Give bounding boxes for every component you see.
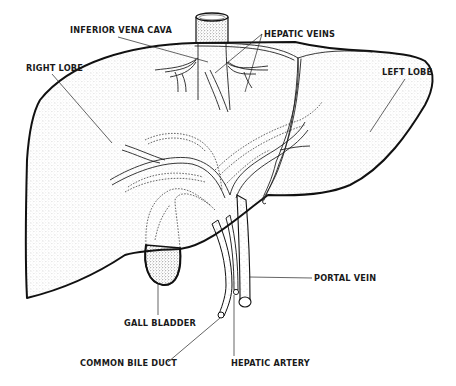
label-inferior-vena-cava: INFERIOR VENA CAVA: [70, 25, 172, 35]
label-gall-bladder: GALL BLADDER: [124, 318, 197, 328]
label-hepatic-veins: HEPATIC VEINS: [264, 29, 335, 39]
portal-vein: [237, 195, 251, 307]
label-common-bile-duct: COMMON BILE DUCT: [80, 358, 177, 368]
label-hepatic-artery: HEPATIC ARTERY: [231, 358, 311, 368]
leader-portal-vein: [249, 277, 312, 278]
label-portal-vein: PORTAL VEIN: [314, 273, 376, 283]
liver-diagram: INFERIOR VENA CAVA HEPATIC VEINS RIGHT L…: [0, 0, 456, 386]
liver: [0, 0, 456, 386]
label-left-lobe: LEFT LOBE: [382, 67, 432, 77]
label-right-lobe: RIGHT LOBE: [26, 63, 83, 73]
